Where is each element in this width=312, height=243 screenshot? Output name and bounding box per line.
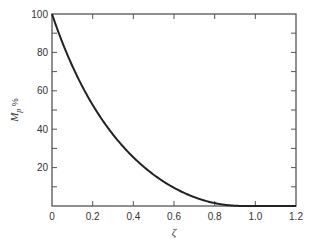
y-tick-label: 80	[37, 47, 49, 58]
x-tick-label: 0.4	[126, 211, 140, 222]
y-tick-label: 60	[37, 85, 49, 96]
x-tick-label: 0.6	[167, 211, 181, 222]
axis-ticks	[52, 14, 296, 206]
y-tick-labels: 20406080100	[31, 9, 48, 174]
x-tick-label: 0.2	[86, 211, 100, 222]
y-tick-label: 40	[37, 124, 49, 135]
x-tick-label: 0	[49, 211, 55, 222]
plot-frame	[52, 14, 296, 206]
x-tick-labels: 00.20.40.60.81.01.2	[49, 211, 303, 222]
x-tick-label: 0.8	[208, 211, 222, 222]
y-tick-label: 100	[31, 9, 48, 20]
x-tick-label: 1.0	[248, 211, 262, 222]
y-tick-label: 20	[37, 162, 49, 173]
overshoot-curve	[52, 14, 296, 206]
y-axis-label: Mp %	[8, 98, 23, 123]
overshoot-chart: 00.20.40.60.81.01.2 20406080100 ζ Mp %	[0, 0, 312, 243]
x-tick-label: 1.2	[289, 211, 303, 222]
x-axis-label: ζ	[172, 226, 178, 239]
